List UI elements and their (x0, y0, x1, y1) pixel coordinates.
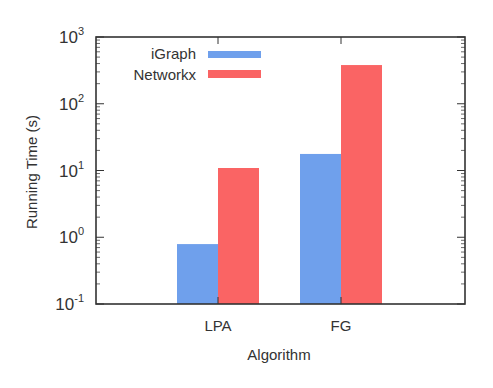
x-tick-label-lpa: LPA (204, 317, 231, 334)
legend: iGraph Networkx (133, 45, 261, 83)
legend-swatch-igraph (208, 51, 261, 58)
y-axis-label: Running Time (s) (23, 115, 40, 229)
y-tick-label: 10-1 (55, 292, 84, 314)
legend-label-igraph: iGraph (151, 45, 196, 62)
bar-networkx-fg (341, 65, 382, 304)
y-tick-label: 101 (59, 159, 84, 181)
y-tick-label: 103 (59, 25, 84, 47)
bar-networkx-lpa (218, 168, 259, 304)
bars-group (177, 65, 382, 304)
y-tick-labels: 10-1100101102103 (55, 25, 84, 314)
x-axis-label: Algorithm (247, 346, 310, 363)
legend-label-networkx: Networkx (133, 66, 196, 83)
y-tick-label: 102 (59, 92, 84, 114)
bar-igraph-fg (300, 154, 341, 304)
bar-chart: 10-1100101102103 LPA FG Algorithm Runnin… (0, 0, 493, 388)
y-tick-label: 100 (59, 225, 84, 247)
legend-swatch-networkx (208, 70, 261, 78)
x-tick-label-fg: FG (331, 317, 352, 334)
bar-igraph-lpa (177, 244, 218, 304)
